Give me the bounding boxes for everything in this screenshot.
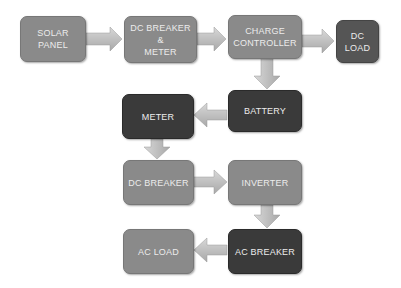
node-dc-load: DC LOAD	[336, 20, 379, 63]
arrow-dcbreaker-to-charge	[197, 27, 226, 51]
arrow-charge-to-dcload	[302, 29, 334, 53]
node-label: BATTERY	[244, 105, 286, 117]
node-dc-breaker-meter: DC BREAKER & METER	[124, 16, 197, 63]
node-label: DC BREAKER & METER	[130, 22, 191, 58]
arrow-acbreaker-to-acload	[194, 238, 227, 262]
node-battery: BATTERY	[228, 90, 302, 132]
arrow-solar-to-dcbreaker	[86, 27, 122, 51]
node-charge-controller: CHARGE CONTROLLER	[228, 15, 302, 59]
node-label: METER	[142, 111, 175, 123]
node-solar-panel: SOLAR PANEL	[20, 16, 86, 62]
node-label: INVERTER	[242, 177, 289, 189]
arrow-battery-to-meter	[194, 103, 227, 127]
node-meter: METER	[122, 94, 194, 139]
node-label: CHARGE CONTROLLER	[233, 25, 297, 49]
node-label: AC BREAKER	[235, 246, 295, 258]
node-label: DC LOAD	[345, 30, 370, 54]
arrow-charge-to-battery	[254, 58, 280, 89]
node-inverter: INVERTER	[228, 160, 302, 205]
node-label: AC LOAD	[138, 246, 179, 258]
node-label: DC BREAKER	[128, 177, 189, 189]
arrow-dcbreaker-to-inverter	[193, 170, 227, 194]
node-label: SOLAR PANEL	[37, 27, 69, 51]
node-ac-breaker: AC BREAKER	[228, 229, 302, 274]
node-ac-load: AC LOAD	[123, 229, 194, 274]
arrow-inverter-to-acbreaker	[254, 205, 280, 228]
node-dc-breaker: DC BREAKER	[123, 160, 194, 205]
arrow-meter-to-dcbreaker	[144, 139, 170, 159]
